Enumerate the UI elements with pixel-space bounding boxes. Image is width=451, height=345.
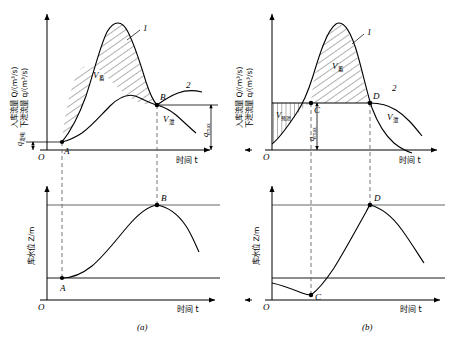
y-axis-label-a-line1: 入库流量 Q/(m³/s) (9, 67, 19, 128)
point-B-level (155, 203, 160, 208)
q-max-subscript: max (205, 123, 211, 133)
q-max-subscript-b: max (311, 127, 317, 137)
y-axis-label-a-line2: 下泄流量 q/(m³/s) (19, 68, 29, 128)
label-point-A-flow: A (63, 146, 70, 156)
label-curve1-a: 1 (143, 23, 148, 33)
q-power-subscript: 发电 (19, 132, 26, 142)
label-v-release-a: V泄 (163, 114, 175, 126)
y-axis-cn-b-level: 库水位 Z/m (251, 227, 261, 265)
label-point-B-level: B (161, 193, 167, 203)
leader-curve1-b (352, 34, 364, 44)
label-point-D-level: D (373, 193, 381, 203)
point-C-flow (309, 101, 313, 105)
y-axis-cn-a-1: 入库流量 Q/(m³/s) (9, 67, 19, 128)
point-D-flow (368, 101, 373, 106)
x-axis-cn-a: 时间 t (176, 155, 198, 165)
origin-label-b-level: O (263, 302, 270, 312)
y-axis-cn-a-level: 库水位 Z/m (26, 227, 36, 265)
y-axis-cn-a-2: 下泄流量 q/(m³/s) (19, 68, 29, 128)
point-D-level (368, 203, 373, 208)
panel-b-flow-chart: 1 2 C D V蓄 V泄 V预泄 qmax O 时间 t 入库流量 Q/(m³… (234, 14, 437, 178)
panel-a-level-chart: A B O 时间 t 库水位 Z/m (a) (26, 178, 220, 332)
label-point-B-flow: B (160, 92, 166, 102)
label-q-max-a: qmax (200, 123, 211, 137)
y-axis-label-b-level: 库水位 Z/m (251, 227, 261, 265)
point-A-level (60, 276, 64, 280)
x-axis-label-b-level: 时间 t (400, 304, 422, 314)
origin-label-a-flow: O (38, 152, 45, 162)
label-curve2-a: 2 (186, 80, 191, 90)
x-axis-cn-a-level: 时间 t (177, 304, 199, 314)
region-v-store-a (62, 23, 157, 142)
v-release-subscript: 泄 (169, 118, 175, 126)
panel-a-flow-chart: 1 2 A B V蓄 V泄 q发电 qmax O 时间 t 入库流量 Q/(m³… (9, 14, 218, 178)
label-curve1-b: 1 (367, 27, 372, 37)
region-v-store-b (311, 24, 370, 103)
y-axis-cn-b-1: 入库流量 Q/(m³/s) (234, 67, 244, 128)
curve-level-b (272, 205, 424, 295)
v-store-subscript-b: 蓄 (338, 65, 344, 73)
curve-level-a (62, 205, 199, 278)
point-C-level (309, 293, 313, 297)
x-axis-label-a-flow: 时间 t (176, 155, 198, 165)
origin-label-b-flow: O (263, 152, 270, 162)
label-q-power-a: q发电 (15, 132, 26, 146)
y-axis-label-b-line2: 下泄流量 q/(m³/s) (244, 68, 254, 128)
label-point-C-flow: C (314, 105, 321, 115)
label-curve2-b: 2 (392, 83, 397, 93)
figure-container: 1 2 A B V蓄 V泄 q发电 qmax O 时间 t 入库流量 Q/(m³… (0, 0, 451, 345)
label-point-A-level: A (59, 283, 66, 293)
y-axis-label-b-line1: 入库流量 Q/(m³/s) (234, 67, 244, 128)
y-axis-label-a-level: 库水位 Z/m (26, 227, 36, 265)
x-axis-cn-b-level: 时间 t (400, 304, 422, 314)
caption-b: (b) (362, 322, 373, 332)
x-axis-label-a-level: 时间 t (177, 304, 199, 314)
v-store-subscript: 蓄 (99, 74, 105, 82)
v-release-subscript-b: 泄 (393, 116, 399, 124)
label-q-max-b: qmax (306, 127, 317, 141)
point-A-flow (60, 140, 64, 144)
label-point-D-flow: D (372, 91, 380, 101)
point-B-flow (155, 103, 160, 108)
label-point-C-level: C (315, 292, 322, 302)
v-prerelease-subscript: 预泄 (281, 115, 291, 122)
x-axis-cn-b: 时间 t (399, 155, 421, 165)
x-axis-label-b-flow: 时间 t (399, 155, 421, 165)
panel-b-level-chart: C D O 时间 t 库水位 Z/m (b) (245, 178, 445, 332)
origin-label-a-level: O (38, 302, 45, 312)
label-v-release-b: V泄 (387, 112, 399, 124)
caption-a: (a) (137, 322, 148, 332)
y-axis-cn-b-2: 下泄流量 q/(m³/s) (244, 68, 254, 128)
